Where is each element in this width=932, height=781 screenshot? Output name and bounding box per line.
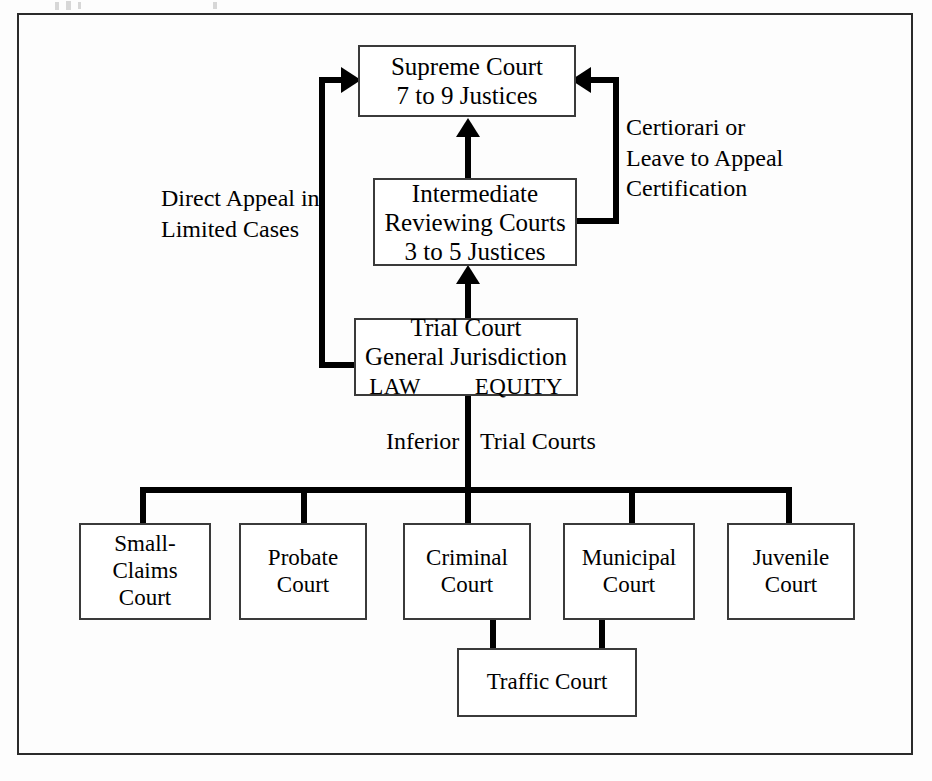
inferior-label-right: Trial Courts bbox=[480, 428, 596, 454]
municipal-court-line-1: Municipal bbox=[582, 545, 677, 572]
scan-artifact bbox=[213, 2, 217, 9]
supreme-court-line-1: Supreme Court bbox=[391, 52, 543, 81]
connector-drop-juvenile bbox=[786, 487, 792, 525]
node-juvenile-court[interactable]: Juvenile Court bbox=[727, 523, 855, 620]
certiorari-line-2: Leave to Appeal bbox=[626, 143, 783, 174]
node-intermediate-courts[interactable]: Intermediate Reviewing Courts 3 to 5 Jus… bbox=[373, 178, 577, 266]
criminal-court-line-1: Criminal bbox=[426, 545, 508, 572]
connector-criminal-to-traffic bbox=[490, 618, 496, 650]
connector-drop-probate bbox=[301, 487, 307, 525]
intermediate-courts-line-1: Intermediate bbox=[412, 179, 538, 208]
trial-court-line-1: Trial Court bbox=[411, 313, 522, 342]
supreme-court-line-2: 7 to 9 Justices bbox=[397, 81, 538, 110]
annotation-inferior-trial-courts-right: Trial Courts bbox=[480, 428, 596, 455]
node-criminal-court[interactable]: Criminal Court bbox=[403, 523, 531, 620]
connector-certiorari-riser bbox=[613, 77, 619, 224]
annotation-direct-appeal: Direct Appeal in Limited Cases bbox=[161, 183, 320, 244]
direct-appeal-line-1: Direct Appeal in bbox=[161, 183, 320, 214]
connector-drop-criminal bbox=[465, 487, 471, 525]
connector-drop-municipal bbox=[629, 487, 635, 525]
juvenile-court-line-1: Juvenile bbox=[753, 545, 830, 572]
direct-appeal-line-2: Limited Cases bbox=[161, 214, 320, 245]
node-supreme-court[interactable]: Supreme Court 7 to 9 Justices bbox=[358, 45, 576, 117]
probate-court-line-1: Probate bbox=[268, 545, 338, 572]
connector-drop-small-claims bbox=[140, 487, 146, 525]
juvenile-court-line-2: Court bbox=[765, 572, 817, 599]
arrowhead-trial-to-intermediate bbox=[456, 265, 480, 284]
certiorari-line-1: Certiorari or bbox=[626, 112, 783, 143]
connector-trial-to-inferior-bus bbox=[465, 395, 471, 488]
probate-court-line-2: Court bbox=[277, 572, 329, 599]
connector-certiorari-entry bbox=[591, 77, 619, 83]
certiorari-line-3: Certification bbox=[626, 173, 783, 204]
connector-trial-to-intermediate bbox=[465, 278, 471, 318]
node-traffic-court[interactable]: Traffic Court bbox=[457, 648, 637, 717]
annotation-inferior-trial-courts-left: Inferior bbox=[386, 428, 459, 455]
arrowhead-intermediate-to-supreme bbox=[456, 118, 480, 137]
connector-municipal-to-traffic bbox=[599, 618, 605, 650]
node-municipal-court[interactable]: Municipal Court bbox=[563, 523, 695, 620]
scan-artifact bbox=[55, 2, 59, 10]
scan-artifact bbox=[66, 1, 71, 10]
traffic-court-line-1: Traffic Court bbox=[487, 669, 608, 696]
connector-intermediate-to-supreme bbox=[465, 130, 471, 178]
trial-court-division-equity: EQUITY bbox=[475, 374, 563, 401]
scan-artifact bbox=[78, 2, 81, 9]
trial-court-division-law: LAW bbox=[369, 374, 421, 401]
court-hierarchy-diagram: Supreme Court 7 to 9 Justices Intermedia… bbox=[0, 0, 932, 781]
trial-court-line-2: General Jurisdiction bbox=[365, 342, 567, 371]
annotation-certiorari: Certiorari or Leave to Appeal Certificat… bbox=[626, 112, 783, 204]
node-probate-court[interactable]: Probate Court bbox=[239, 523, 367, 620]
connector-direct-appeal-riser bbox=[319, 77, 325, 368]
small-claims-court-line-2: Claims bbox=[112, 558, 177, 585]
node-small-claims-court[interactable]: Small- Claims Court bbox=[79, 523, 211, 620]
small-claims-court-line-1: Small- bbox=[114, 531, 175, 558]
intermediate-courts-line-3: 3 to 5 Justices bbox=[405, 237, 546, 266]
trial-court-divisions: LAW EQUITY bbox=[369, 374, 563, 401]
node-trial-court[interactable]: Trial Court General Jurisdiction LAW EQU… bbox=[354, 318, 578, 396]
small-claims-court-line-3: Court bbox=[119, 585, 171, 612]
criminal-court-line-2: Court bbox=[441, 572, 493, 599]
intermediate-courts-line-2: Reviewing Courts bbox=[384, 208, 565, 237]
inferior-label-left: Inferior bbox=[386, 428, 459, 454]
municipal-court-line-2: Court bbox=[603, 572, 655, 599]
